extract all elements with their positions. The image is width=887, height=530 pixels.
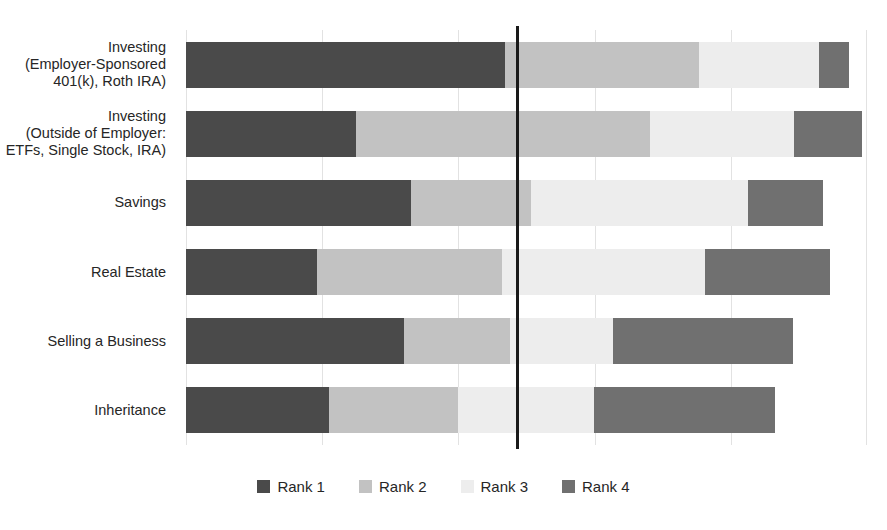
bar-row — [186, 99, 867, 168]
y-axis-label-line: (Outside of Employer: — [26, 125, 166, 142]
bar-segment-rank-2[interactable] — [404, 318, 510, 364]
bar-segment-rank-3[interactable] — [531, 180, 748, 226]
legend-item-rank-3[interactable]: Rank 3 — [461, 478, 529, 495]
bar-segment-rank-2[interactable] — [329, 387, 458, 433]
bar-segment-rank-1[interactable] — [186, 111, 356, 157]
stacked-bar[interactable] — [186, 111, 867, 157]
bar-segment-rank-1[interactable] — [186, 318, 404, 364]
y-axis-label-line: (Employer-Sponsored — [25, 56, 166, 73]
bar-segment-rank-3[interactable] — [502, 249, 705, 295]
y-axis-label-line: ETFs, Single Stock, IRA) — [6, 142, 166, 159]
legend-swatch-icon — [257, 480, 270, 493]
y-axis-label-savings: Savings — [0, 168, 166, 237]
legend-swatch-icon — [359, 480, 372, 493]
legend-swatch-icon — [562, 480, 575, 493]
bar-segment-rank-4[interactable] — [819, 42, 848, 88]
median-reference-line — [516, 26, 519, 449]
bar-segment-rank-2[interactable] — [317, 249, 502, 295]
bar-segment-rank-2[interactable] — [505, 42, 700, 88]
legend-item-rank-1[interactable]: Rank 1 — [257, 478, 325, 495]
stacked-bar[interactable] — [186, 180, 867, 226]
plot-area — [186, 30, 867, 445]
legend-label: Rank 3 — [481, 478, 529, 495]
bar-row — [186, 376, 867, 445]
bar-row — [186, 238, 867, 307]
bar-segment-rank-3[interactable] — [699, 42, 819, 88]
bar-segment-rank-4[interactable] — [705, 249, 830, 295]
y-axis-label-line: Savings — [114, 194, 166, 211]
y-axis-label-selling-a-business: Selling a Business — [0, 307, 166, 376]
legend-swatch-icon — [461, 480, 474, 493]
legend-item-rank-4[interactable]: Rank 4 — [562, 478, 630, 495]
stacked-bar[interactable] — [186, 42, 867, 88]
y-axis-label-investing-outside-employer: Investing(Outside of Employer:ETFs, Sing… — [0, 99, 166, 168]
bar-segment-rank-4[interactable] — [594, 387, 775, 433]
legend-label: Rank 2 — [379, 478, 427, 495]
y-axis-label-real-estate: Real Estate — [0, 238, 166, 307]
bar-segment-rank-4[interactable] — [794, 111, 862, 157]
y-axis-label-investing-employer-sponsored: Investing(Employer-Sponsored401(k), Roth… — [0, 30, 166, 99]
bar-segment-rank-3[interactable] — [650, 111, 794, 157]
chart-legend: Rank 1Rank 2Rank 3Rank 4 — [0, 478, 887, 495]
bar-row — [186, 168, 867, 237]
stacked-bar-chart: Investing(Employer-Sponsored401(k), Roth… — [0, 0, 887, 530]
legend-label: Rank 1 — [277, 478, 325, 495]
bar-segment-rank-1[interactable] — [186, 180, 411, 226]
y-axis-labels: Investing(Employer-Sponsored401(k), Roth… — [0, 30, 176, 445]
bar-segment-rank-4[interactable] — [748, 180, 823, 226]
y-axis-label-line: Selling a Business — [48, 333, 167, 350]
legend-label: Rank 4 — [582, 478, 630, 495]
bar-segment-rank-2[interactable] — [411, 180, 531, 226]
y-axis-label-inheritance: Inheritance — [0, 376, 166, 445]
bar-segment-rank-4[interactable] — [613, 318, 793, 364]
bar-row — [186, 307, 867, 376]
stacked-bar[interactable] — [186, 318, 867, 364]
stacked-bar[interactable] — [186, 387, 867, 433]
legend-item-rank-2[interactable]: Rank 2 — [359, 478, 427, 495]
stacked-bar[interactable] — [186, 249, 867, 295]
bar-rows — [186, 30, 867, 445]
bar-segment-rank-1[interactable] — [186, 387, 329, 433]
bar-segment-rank-1[interactable] — [186, 249, 317, 295]
y-axis-label-line: 401(k), Roth IRA) — [53, 73, 166, 90]
bar-row — [186, 30, 867, 99]
bar-segment-rank-3[interactable] — [510, 318, 613, 364]
bar-segment-rank-1[interactable] — [186, 42, 505, 88]
bar-segment-rank-3[interactable] — [458, 387, 594, 433]
y-axis-label-line: Investing — [108, 39, 166, 56]
bar-segment-rank-2[interactable] — [356, 111, 650, 157]
y-axis-label-line: Investing — [108, 108, 166, 125]
y-axis-label-line: Inheritance — [94, 402, 166, 419]
y-axis-label-line: Real Estate — [91, 264, 166, 281]
